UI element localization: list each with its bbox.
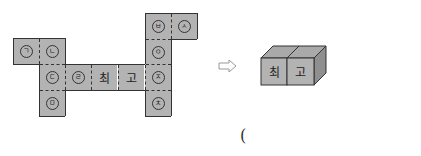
circled-label: ㅅ <box>178 20 191 33</box>
circled-label: ㄹ <box>72 71 85 84</box>
net-cell: ㅈ <box>145 64 171 90</box>
fold-line <box>146 39 171 40</box>
net-cell: ㄴ <box>39 38 65 64</box>
fold-line <box>65 65 66 90</box>
answer-paren: ( <box>240 126 246 145</box>
net-cell: ㅂ <box>145 13 171 39</box>
fold-line <box>145 65 146 90</box>
net-cell: ㄱ <box>13 38 39 64</box>
net-edge <box>65 90 145 91</box>
net-cell: ㅅ <box>171 13 197 39</box>
net-edge <box>171 39 197 40</box>
fold-line <box>40 90 65 91</box>
net-cell: 최 <box>91 64 117 90</box>
net-cell: ㅇ <box>145 39 171 65</box>
circled-label: ㅇ <box>152 46 165 59</box>
net-edge <box>65 90 66 116</box>
net-edge <box>65 38 66 64</box>
circled-label: ㄱ <box>20 45 33 58</box>
net-edge <box>171 39 172 116</box>
circled-label: ㄴ <box>46 45 59 58</box>
arrow-icon <box>218 59 238 73</box>
net-edge <box>13 38 14 64</box>
cell-label: 고 <box>126 69 137 86</box>
net-edge <box>65 64 145 65</box>
net-edge <box>145 90 146 116</box>
fold-line <box>40 64 65 65</box>
cube-face-right-label: 고 <box>287 58 314 85</box>
fold-line <box>146 90 171 91</box>
fold-line <box>91 65 92 90</box>
cell-label: 최 <box>99 69 110 86</box>
fold-line <box>146 64 171 65</box>
fold-line <box>118 65 119 90</box>
net-edge <box>39 116 65 117</box>
net-cell: ㅁ <box>39 90 65 116</box>
net-cell: ㅊ <box>145 90 171 116</box>
net-cell: 고 <box>118 64 144 90</box>
fold-line <box>39 39 40 64</box>
circled-label: ㅊ <box>152 97 165 110</box>
circled-label: ㅂ <box>152 20 165 33</box>
circled-label: ㅈ <box>152 71 165 84</box>
net-cell: ㄷ <box>39 64 65 90</box>
circled-label: ㅁ <box>46 97 59 110</box>
cube-face-left-label: 최 <box>261 58 287 85</box>
fold-line <box>171 14 172 39</box>
net-cell: ㄹ <box>65 64 91 90</box>
net-edge <box>13 64 39 65</box>
net-edge <box>145 116 171 117</box>
net-edge <box>197 13 198 39</box>
circled-label: ㄷ <box>46 71 59 84</box>
